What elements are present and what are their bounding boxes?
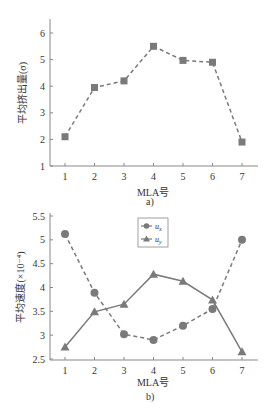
- series-line-ux: [65, 234, 242, 340]
- x-tick-label: 3: [122, 365, 127, 376]
- chart-b-y-axis: 2.533.544.555.5: [33, 211, 54, 365]
- x-tick-label: 2: [92, 365, 97, 376]
- chart-a-y-axis: 123456: [40, 19, 53, 172]
- y-tick-label: 5: [40, 54, 45, 65]
- x-tick-label: 2: [92, 171, 97, 182]
- x-tick-label: 3: [122, 171, 127, 182]
- y-tick-label: 3.5: [33, 306, 46, 317]
- chart-a-y-label: 平均挤出量(σ): [16, 62, 29, 124]
- chart-b-caption: b): [146, 391, 154, 402]
- square-marker-icon: [209, 59, 216, 66]
- circle-marker-icon: [179, 322, 187, 330]
- y-tick-label: 3: [40, 107, 45, 118]
- x-tick-label: 4: [151, 365, 156, 376]
- circle-marker-icon: [144, 223, 150, 229]
- circle-marker-icon: [120, 330, 128, 338]
- chart-b-series: [61, 230, 247, 355]
- y-tick-label: 1: [40, 161, 45, 172]
- x-tick-label: 7: [240, 365, 245, 376]
- chart-b-plot: 2.533.544.555.5 1234567 平均速度(×10⁻⁴) MLA号…: [0, 205, 268, 419]
- x-tick-label: 1: [63, 365, 68, 376]
- square-marker-icon: [62, 133, 69, 140]
- triangle-marker-icon: [149, 270, 158, 278]
- x-tick-label: 4: [151, 171, 156, 182]
- triangle-marker-icon: [208, 295, 217, 303]
- chart-a-x-axis: 1234567: [50, 163, 258, 182]
- circle-marker-icon: [61, 230, 69, 238]
- chart-b-x-axis: 1234567: [50, 357, 258, 376]
- x-tick-label: 1: [63, 171, 68, 182]
- x-tick-label: 6: [210, 171, 215, 182]
- circle-marker-icon: [238, 236, 246, 244]
- square-marker-icon: [121, 77, 128, 84]
- chart-b-x-label: MLA号: [137, 377, 169, 388]
- chart-b-velocity: 2.533.544.555.5 1234567 平均速度(×10⁻⁴) MLA号…: [0, 205, 268, 419]
- x-tick-label: 6: [210, 365, 215, 376]
- y-tick-label: 5: [40, 234, 45, 245]
- square-marker-icon: [150, 43, 157, 50]
- circle-marker-icon: [150, 336, 158, 344]
- y-tick-label: 3: [40, 330, 45, 341]
- x-tick-label: 7: [240, 171, 245, 182]
- square-marker-icon: [180, 57, 187, 64]
- square-marker-icon: [239, 139, 246, 146]
- chart-b-legend: ux uy: [138, 218, 168, 247]
- chart-a-series: [62, 43, 246, 146]
- triangle-marker-icon: [238, 347, 247, 355]
- x-tick-label: 5: [181, 171, 186, 182]
- y-tick-label: 5.5: [33, 211, 46, 222]
- y-tick-label: 2: [40, 134, 45, 145]
- x-tick-label: 5: [181, 365, 186, 376]
- square-marker-icon: [91, 84, 98, 91]
- y-tick-label: 4: [40, 282, 45, 293]
- y-tick-label: 2.5: [33, 354, 46, 365]
- chart-b-y-label: 平均速度(×10⁻⁴): [14, 251, 27, 322]
- y-tick-label: 4.5: [33, 258, 46, 269]
- y-tick-label: 6: [40, 28, 45, 39]
- chart-a-plot: 123456 1234567 平均挤出量(σ) MLA号: [0, 0, 268, 205]
- circle-marker-icon: [91, 289, 99, 297]
- y-tick-label: 4: [40, 81, 45, 92]
- chart-a-extrusion: 123456 1234567 平均挤出量(σ) MLA号 a): [0, 0, 268, 205]
